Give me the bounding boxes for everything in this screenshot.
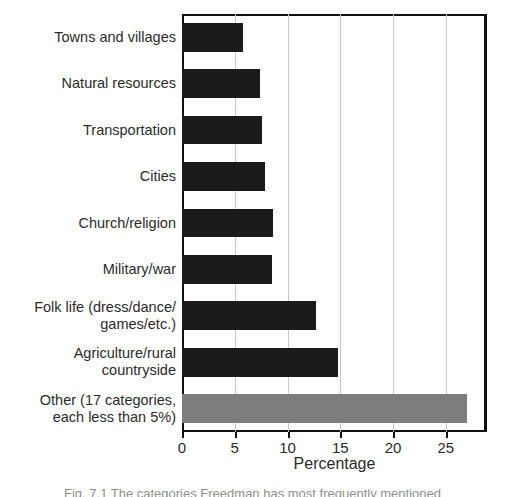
x-tick-label: 25	[437, 439, 454, 456]
category-label: Agriculture/rural countryside	[6, 345, 182, 379]
category-label: Folk life (dress/dance/ games/etc.)	[6, 299, 182, 333]
category-label: Military/war	[6, 261, 182, 278]
bar	[182, 116, 262, 145]
bar-row	[182, 255, 487, 284]
figure-container: Towns and villagesNatural resourcesTrans…	[0, 0, 505, 497]
figure-caption: Fig. 7.1 The categories Freedman has mos…	[0, 486, 505, 497]
x-tick	[235, 432, 237, 438]
bar	[182, 348, 338, 377]
x-tick	[182, 432, 184, 438]
x-tick-label: 5	[231, 439, 239, 456]
x-axis-title: Percentage	[182, 455, 487, 473]
bar-row	[182, 209, 487, 238]
x-tick-label: 15	[332, 439, 349, 456]
x-tick	[446, 432, 448, 438]
bar	[182, 255, 272, 284]
x-tick-label: 10	[279, 439, 296, 456]
bar-row	[182, 301, 487, 330]
bar	[182, 209, 273, 238]
bar	[182, 301, 316, 330]
bar	[182, 23, 243, 52]
bar-row	[182, 116, 487, 145]
category-label: Cities	[6, 168, 182, 185]
bar	[182, 162, 265, 191]
bar-row	[182, 69, 487, 98]
category-label: Church/religion	[6, 215, 182, 232]
bar	[182, 69, 260, 98]
bar-series	[182, 14, 487, 432]
bar-row	[182, 162, 487, 191]
bar-row	[182, 23, 487, 52]
x-tick	[288, 432, 290, 438]
plot-area	[182, 14, 487, 432]
x-tick-label: 20	[385, 439, 402, 456]
category-label: Transportation	[6, 122, 182, 139]
category-axis-labels: Towns and villagesNatural resourcesTrans…	[0, 14, 182, 432]
bar-row	[182, 394, 487, 423]
x-tick	[340, 432, 342, 438]
category-label: Other (17 categories, each less than 5%)	[6, 392, 182, 426]
bar	[182, 394, 467, 423]
category-label: Natural resources	[6, 75, 182, 92]
x-tick-label: 0	[178, 439, 186, 456]
x-tick	[393, 432, 395, 438]
bar-row	[182, 348, 487, 377]
category-label: Towns and villages	[6, 29, 182, 46]
